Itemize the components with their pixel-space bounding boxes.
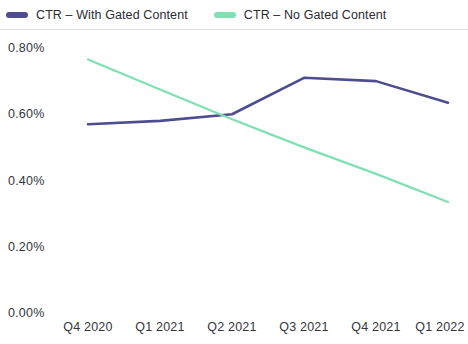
legend-item-gated[interactable]: CTR – With Gated Content bbox=[6, 8, 188, 22]
y-tick-label: 0.20% bbox=[8, 240, 70, 254]
legend-swatch-nogated-icon bbox=[214, 12, 236, 18]
series-line-gated bbox=[88, 78, 448, 124]
x-tick-label: Q4 2021 bbox=[351, 320, 400, 334]
chart-legend: CTR – With Gated Content CTR – No Gated … bbox=[0, 0, 468, 30]
series-line-nogated bbox=[88, 60, 448, 202]
x-tick-label: Q2 2021 bbox=[207, 320, 256, 334]
plot-svg bbox=[0, 30, 468, 344]
y-tick-label: 0.80% bbox=[8, 41, 70, 55]
plot-area bbox=[0, 30, 468, 344]
x-axis-tick-labels: Q4 2020Q1 2021Q2 2021Q3 2021Q4 2021Q1 20… bbox=[0, 320, 468, 344]
x-tick-label: Q3 2021 bbox=[279, 320, 328, 334]
legend-swatch-gated-icon bbox=[6, 12, 28, 18]
chart-container: CTR – With Gated Content CTR – No Gated … bbox=[0, 0, 468, 344]
y-tick-label: 0.00% bbox=[8, 306, 70, 320]
y-tick-label: 0.40% bbox=[8, 174, 70, 188]
x-tick-label: Q1 2022 bbox=[415, 320, 464, 334]
x-tick-label: Q1 2021 bbox=[135, 320, 184, 334]
y-tick-label: 0.60% bbox=[8, 107, 70, 121]
legend-label-nogated: CTR – No Gated Content bbox=[244, 8, 387, 22]
legend-label-gated: CTR – With Gated Content bbox=[36, 8, 188, 22]
legend-item-nogated[interactable]: CTR – No Gated Content bbox=[214, 8, 387, 22]
x-tick-label: Q4 2020 bbox=[63, 320, 112, 334]
y-axis-tick-labels: 0.80%0.60%0.40%0.20%0.00% bbox=[8, 30, 70, 344]
